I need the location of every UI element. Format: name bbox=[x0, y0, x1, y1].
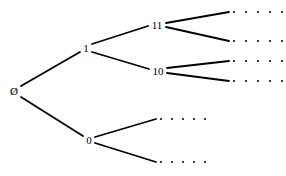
ellipsis-dot bbox=[193, 161, 195, 163]
tree-node-n10: 10 bbox=[153, 66, 164, 77]
ellipsis-dot bbox=[233, 80, 235, 82]
ellipsis-dot bbox=[233, 11, 235, 13]
ellipsis-dot bbox=[233, 40, 235, 42]
tree-edges-canvas bbox=[0, 0, 286, 176]
ellipsis-dot bbox=[160, 118, 162, 120]
ellipsis-dot bbox=[160, 161, 162, 163]
ellipsis-dot bbox=[269, 11, 271, 13]
ellipsis-dot bbox=[269, 80, 271, 82]
tree-edge bbox=[167, 73, 229, 81]
ellipsis-dot bbox=[204, 161, 206, 163]
ellipsis-dot bbox=[281, 60, 283, 62]
ellipsis-dot bbox=[233, 60, 235, 62]
ellipsis-dot bbox=[204, 118, 206, 120]
ellipsis-dot bbox=[245, 60, 247, 62]
ellipsis-continuation-leaf4 bbox=[233, 80, 283, 82]
tree-edge bbox=[166, 27, 229, 41]
tree-node-root: Ø bbox=[10, 86, 18, 97]
ellipsis-continuation-leaf5 bbox=[160, 118, 206, 120]
tree-edge bbox=[95, 119, 156, 137]
ellipsis-dot bbox=[193, 118, 195, 120]
tree-node-n1: 1 bbox=[83, 43, 89, 54]
tree-edge bbox=[92, 52, 149, 69]
ellipsis-dot bbox=[245, 11, 247, 13]
tree-edge bbox=[95, 143, 156, 162]
ellipsis-dot bbox=[257, 11, 259, 13]
ellipsis-dot bbox=[257, 40, 259, 42]
tree-node-n11: 11 bbox=[152, 20, 163, 31]
ellipsis-dot bbox=[257, 80, 259, 82]
ellipsis-dot bbox=[269, 60, 271, 62]
ellipsis-dot bbox=[257, 60, 259, 62]
ellipsis-dot bbox=[182, 118, 184, 120]
ellipsis-continuation-leaf2 bbox=[233, 40, 283, 42]
ellipsis-dot bbox=[269, 40, 271, 42]
ellipsis-dot bbox=[171, 161, 173, 163]
tree-edge bbox=[166, 12, 229, 23]
tree-edge bbox=[21, 97, 83, 136]
ellipsis-dot bbox=[245, 40, 247, 42]
tree-edge bbox=[92, 26, 148, 44]
ellipsis-dot bbox=[245, 80, 247, 82]
ellipsis-continuation-leaf6 bbox=[160, 161, 206, 163]
ellipsis-dot bbox=[281, 80, 283, 82]
ellipsis-continuation-leaf1 bbox=[233, 11, 283, 13]
ellipsis-dot bbox=[281, 11, 283, 13]
edge-group bbox=[21, 12, 229, 162]
ellipsis-dot bbox=[281, 40, 283, 42]
tree-edge bbox=[167, 61, 229, 68]
ellipsis-continuation-leaf3 bbox=[233, 60, 283, 62]
ellipsis-dot bbox=[182, 161, 184, 163]
tree-node-n0: 0 bbox=[86, 135, 92, 146]
binary-tree-diagram: Ø101110 bbox=[0, 0, 286, 176]
tree-edge bbox=[21, 52, 80, 86]
ellipsis-dot bbox=[171, 118, 173, 120]
